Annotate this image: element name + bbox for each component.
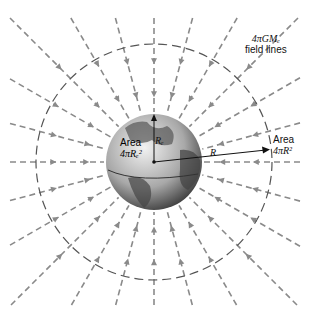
earth-area-formula: 4πRₑ² (120, 148, 142, 159)
earth-area-label: Area 4πRₑ² (120, 137, 142, 159)
earth-area-label-text: Area (120, 137, 142, 148)
sphere-area-label-text: Area (273, 134, 294, 145)
sphere-area-label: Area 4πR² (273, 134, 294, 156)
earth-radius-label: Rₑ (155, 135, 164, 146)
field-lines-label-formula: 4πGMₑ (245, 33, 287, 44)
sphere-area-formula: 4πR² (273, 145, 294, 156)
field-lines-label-text: field lines (245, 44, 287, 55)
field-lines-label: 4πGMₑ field lines (245, 33, 287, 55)
sphere-radius-label: R (210, 147, 216, 158)
